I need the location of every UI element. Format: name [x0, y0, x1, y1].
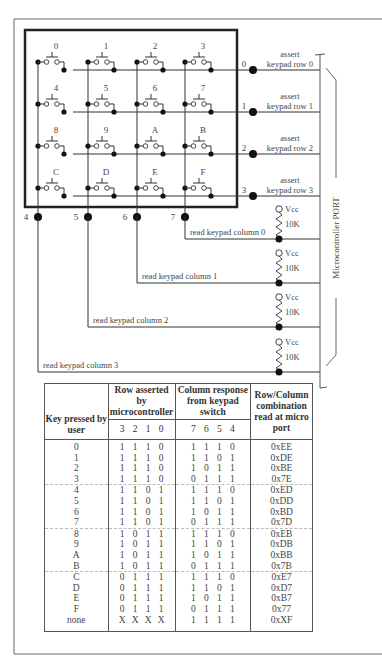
switch-contact [94, 144, 99, 149]
row-pin-dot [249, 66, 257, 74]
switch-contact [202, 60, 207, 65]
vcc-terminal [276, 294, 282, 300]
column-read-label: read keypad column 1 [142, 271, 217, 281]
key-label: 2 [153, 41, 158, 51]
column-bits-cell: 1111 [175, 615, 251, 632]
column-bits-cell: 0111 [175, 561, 251, 572]
switch-contact [105, 144, 110, 149]
key-label: 0 [54, 41, 59, 51]
key-cell: A [45, 550, 109, 561]
switch-contact [154, 144, 159, 149]
column-bits-cell: 1110 [175, 440, 251, 453]
vcc-label: Vcc [285, 248, 299, 258]
row-bits-cell: 1101 [108, 496, 175, 507]
switch-contact [55, 102, 60, 107]
column-bits-cell: 1011 [175, 463, 251, 474]
table-row: C011111100xE7 [45, 572, 313, 583]
keypad-switch-f: F [182, 167, 213, 199]
combination-cell: 0xD7 [251, 583, 313, 594]
column-bits-cell: 1101 [175, 539, 251, 550]
vcc-terminal [276, 206, 282, 212]
table-row: F011101110x77 [45, 604, 313, 615]
junction-dot [111, 67, 116, 72]
junction-dot [61, 109, 66, 114]
row-bits-cell: 1110 [108, 440, 175, 453]
switch-contact [55, 144, 60, 149]
row-bits-cell: 1011 [108, 539, 175, 550]
resistor-zigzag [276, 212, 282, 239]
row-label-line2: keypad row 2 [267, 143, 313, 153]
switch-contact [191, 102, 196, 107]
switch-contact [154, 60, 159, 65]
row-bits-cell: 1110 [108, 474, 175, 485]
key-cell: 8 [45, 528, 109, 539]
key-label: 8 [54, 125, 59, 135]
port-brace: Microcontroller PORT [326, 68, 341, 366]
pullup-resistor: Vcc10K [276, 292, 301, 331]
key-cell: 5 [45, 496, 109, 507]
column-bits-cell: 1011 [175, 507, 251, 518]
key-cell: 4 [45, 485, 109, 496]
column-pin-number: 4 [24, 212, 29, 222]
row-bit-indices: 3210 [108, 420, 175, 440]
key-cell: none [45, 615, 109, 632]
key-label: 4 [54, 83, 59, 93]
row-label-line1: assert [280, 133, 300, 143]
combination-cell: 0xDD [251, 496, 313, 507]
switch-contact [191, 60, 196, 65]
key-cell: D [45, 583, 109, 594]
switch-contact [55, 60, 60, 65]
switch-contact [202, 186, 207, 191]
table-row: 2111010110xBE [45, 463, 313, 474]
header-column-response: Column response from keypad switch [175, 384, 251, 420]
resistance-label: 10K [285, 219, 301, 229]
combination-cell: 0xB7 [251, 593, 313, 604]
junction-dot [160, 67, 165, 72]
junction-dot [276, 369, 283, 376]
table-row: 8101111100xEB [45, 528, 313, 539]
switch-contact [143, 60, 148, 65]
column-read-label: read keypad column 3 [43, 360, 118, 370]
switch-contact [44, 102, 49, 107]
key-cell: F [45, 604, 109, 615]
keypad-switch-6: 6 [134, 83, 165, 115]
resistance-label: 10K [285, 352, 301, 362]
column-bits-cell: 0111 [175, 517, 251, 528]
column-bits-cell: 1011 [175, 550, 251, 561]
combination-cell: 0xEB [251, 528, 313, 539]
row-bits-cell: 0111 [108, 572, 175, 583]
row-bits-cell: 0111 [108, 604, 175, 615]
column-pin-number: 5 [74, 212, 79, 222]
column-pin-number: 6 [123, 212, 128, 222]
vcc-label: Vcc [285, 204, 299, 214]
switch-contact [143, 144, 148, 149]
key-cell: 9 [45, 539, 109, 550]
table-row: 6110110110xBD [45, 507, 313, 518]
table-row: 4110111100xED [45, 485, 313, 496]
junction-dot [208, 151, 213, 156]
switch-contact [154, 102, 159, 107]
key-label: 5 [104, 83, 109, 93]
row-bits-cell: 0111 [108, 583, 175, 594]
column-bits-cell: 1110 [175, 572, 251, 583]
vcc-terminal [276, 250, 282, 256]
port-bus-cap [315, 54, 325, 55]
switch-contact [143, 102, 148, 107]
junction-dot [276, 280, 283, 287]
row-bits-cell: 1101 [108, 485, 175, 496]
key-cell: C [45, 572, 109, 583]
junction-dot [208, 193, 213, 198]
column-bits-cell: 0111 [175, 474, 251, 485]
table-row: D011111010xD7 [45, 583, 313, 594]
vcc-label: Vcc [285, 337, 299, 347]
pullup-resistor: Vcc10K [276, 248, 301, 287]
key-label: E [152, 167, 158, 177]
combination-cell: 0xE7 [251, 572, 313, 583]
resistor-zigzag [276, 300, 282, 327]
row-label-line1: assert [280, 175, 300, 185]
keypad-truth-table: Key pressed by user Row asserted by micr… [44, 383, 313, 632]
row-pin-number: 3 [242, 185, 247, 195]
key-label: 7 [201, 83, 206, 93]
table-row: 0111011100xEE [45, 440, 313, 453]
column-bits-cell: 1101 [175, 583, 251, 594]
